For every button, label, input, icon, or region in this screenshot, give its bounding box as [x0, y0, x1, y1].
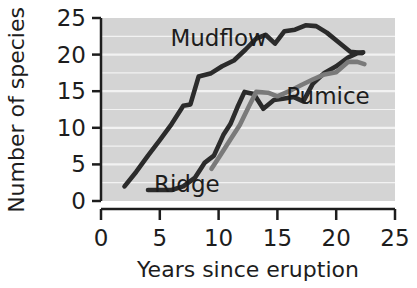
y-tick-label: 5 [71, 151, 86, 177]
x-tick-label: 10 [204, 225, 233, 251]
x-axis: 0510152025 [94, 209, 410, 251]
y-tick-label: 20 [57, 42, 86, 68]
x-tick-label: 25 [380, 225, 409, 251]
y-tick-label: 15 [57, 78, 86, 104]
x-tick-label: 15 [263, 225, 292, 251]
species-succession-line-chart: 0510152025 0510152025 Years since erupti… [0, 0, 417, 288]
x-tick-label: 20 [322, 225, 351, 251]
x-axis-tick-labels: 0510152025 [94, 225, 410, 251]
x-tick-label: 5 [152, 225, 167, 251]
y-axis: 0510152025 [57, 5, 101, 214]
chart-container: 0510152025 0510152025 Years since erupti… [0, 0, 417, 288]
series-label-pumice: Pumice [286, 83, 370, 109]
y-tick-label: 10 [57, 115, 86, 141]
series-label-mudflow: Mudflow [170, 25, 266, 51]
y-axis-title: Number of species [4, 7, 29, 213]
x-axis-ticks [101, 209, 395, 220]
series-label-ridge: Ridge [154, 171, 220, 197]
x-axis-title: Years since eruption [136, 257, 359, 282]
y-tick-label: 0 [71, 188, 86, 214]
y-axis-tick-labels: 0510152025 [57, 5, 86, 214]
y-tick-label: 25 [57, 5, 86, 31]
y-axis-ticks [92, 18, 101, 201]
x-tick-label: 0 [94, 225, 109, 251]
